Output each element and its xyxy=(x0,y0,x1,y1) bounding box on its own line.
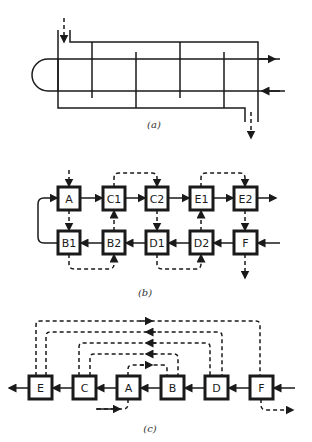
svg-text:E2: E2 xyxy=(239,193,253,206)
node-E: E xyxy=(29,376,52,399)
panel-c-network: E C A B D F (c) xyxy=(9,321,295,434)
svg-text:D2: D2 xyxy=(194,237,209,250)
svg-text:C1: C1 xyxy=(107,193,122,206)
svg-text:B1: B1 xyxy=(62,237,77,250)
node-D2: D2 xyxy=(190,231,213,254)
panel-b-network: A C1 C2 E1 E2 B1 B2 D1 D2 F (b) xyxy=(38,170,280,298)
node-B: B xyxy=(161,376,184,399)
svg-text:E: E xyxy=(37,382,44,395)
panel-a-heat-exchanger: (a) xyxy=(32,18,285,138)
svg-text:F: F xyxy=(242,237,248,250)
node-F: F xyxy=(250,376,273,399)
caption-a: (a) xyxy=(147,119,161,130)
node-E1: E1 xyxy=(190,187,213,210)
svg-text:B: B xyxy=(169,382,177,395)
node-C1: C1 xyxy=(103,187,125,210)
svg-text:F: F xyxy=(258,382,264,395)
node-E2: E2 xyxy=(234,187,257,210)
diagram-canvas: (a) A C1 C2 E1 E2 B1 B2 xyxy=(0,0,312,442)
node-B1: B1 xyxy=(58,231,80,254)
node-A: A xyxy=(58,187,80,210)
svg-text:C: C xyxy=(81,382,89,395)
svg-text:B2: B2 xyxy=(107,237,122,250)
svg-text:D1: D1 xyxy=(149,237,164,250)
svg-text:C2: C2 xyxy=(150,193,165,206)
node-D1: D1 xyxy=(146,231,168,254)
svg-text:A: A xyxy=(65,193,73,206)
svg-text:E1: E1 xyxy=(195,193,209,206)
node-D: D xyxy=(205,376,228,399)
node-C: C xyxy=(73,376,96,399)
node-C2: C2 xyxy=(146,187,168,210)
node-B2: B2 xyxy=(103,231,125,254)
caption-c: (c) xyxy=(143,423,157,434)
node-F: F xyxy=(234,231,257,254)
svg-text:D: D xyxy=(212,382,220,395)
svg-text:A: A xyxy=(125,382,133,395)
node-A: A xyxy=(117,376,140,399)
caption-b: (b) xyxy=(138,287,152,298)
